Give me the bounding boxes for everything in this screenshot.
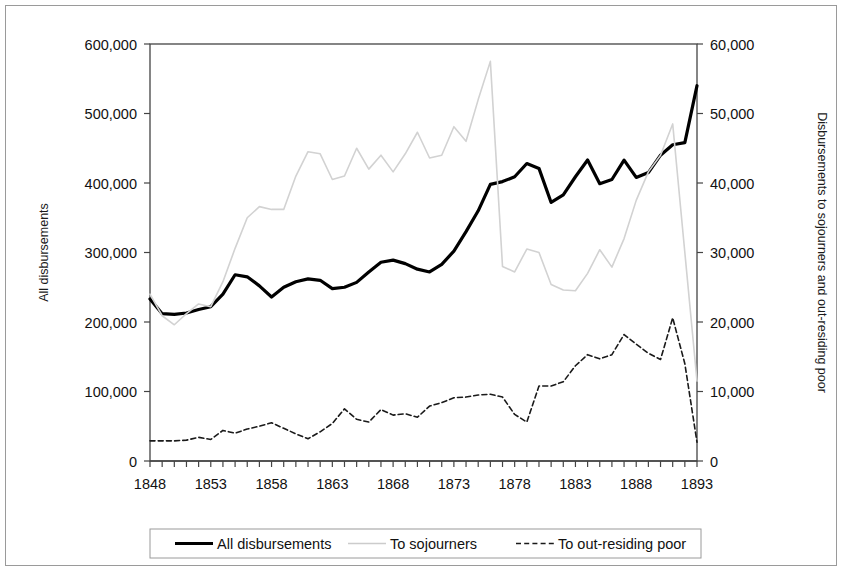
x-tick-label: 1853 bbox=[195, 476, 227, 492]
y-tick-label-right: 30,000 bbox=[710, 245, 754, 261]
x-tick-label: 1868 bbox=[377, 476, 409, 492]
x-tick-label: 1858 bbox=[255, 476, 287, 492]
legend-label-0: All disbursements bbox=[217, 536, 331, 552]
y-tick-label-left: 500,000 bbox=[85, 106, 137, 122]
y-tick-label-right: 0 bbox=[710, 454, 718, 470]
y-tick-label-left: 300,000 bbox=[85, 245, 137, 261]
y-axis-title-left: All disbursements bbox=[37, 203, 51, 302]
plot-area-border bbox=[150, 44, 697, 461]
series-line-0 bbox=[150, 86, 697, 315]
x-tick-label: 1883 bbox=[559, 476, 591, 492]
y-tick-label-right: 40,000 bbox=[710, 176, 754, 192]
x-tick-label: 1878 bbox=[499, 476, 531, 492]
x-tick-label: 1893 bbox=[681, 476, 713, 492]
chart-figure: 1848185318581863186818731878188318881893… bbox=[0, 0, 844, 573]
y-axis-title-right: Disbursements to sojourners and out-resi… bbox=[815, 112, 829, 393]
x-tick-label: 1863 bbox=[316, 476, 348, 492]
y-tick-label-right: 50,000 bbox=[710, 106, 754, 122]
y-tick-label-left: 100,000 bbox=[85, 384, 137, 400]
x-tick-label: 1848 bbox=[134, 476, 166, 492]
y-tick-label-left: 600,000 bbox=[85, 37, 137, 53]
x-tick-label: 1873 bbox=[438, 476, 470, 492]
y-tick-label-left: 200,000 bbox=[85, 315, 137, 331]
legend-label-2: To out-residing poor bbox=[558, 536, 686, 552]
y-tick-label-right: 10,000 bbox=[710, 384, 754, 400]
series-line-1 bbox=[150, 61, 697, 381]
y-tick-label-right: 60,000 bbox=[710, 37, 754, 53]
series-line-2 bbox=[150, 318, 697, 442]
line-chart: 1848185318581863186818731878188318881893… bbox=[0, 0, 844, 573]
y-tick-label-left: 0 bbox=[129, 454, 137, 470]
x-tick-label: 1888 bbox=[620, 476, 652, 492]
legend-label-1: To sojourners bbox=[390, 536, 477, 552]
y-tick-label-right: 20,000 bbox=[710, 315, 754, 331]
y-tick-label-left: 400,000 bbox=[85, 176, 137, 192]
